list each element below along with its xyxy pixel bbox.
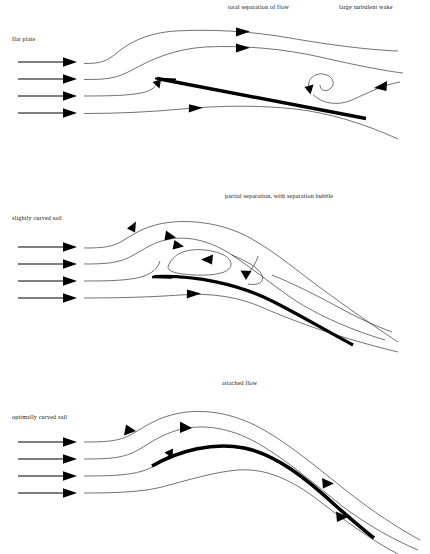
inflow-arrow (18, 276, 77, 286)
panel-2-flow-graphic (0, 185, 430, 370)
streamline-lower (84, 470, 398, 554)
inflow-arrow (18, 454, 77, 464)
inflow-arrow (18, 437, 77, 447)
inflow-arrow (18, 242, 77, 252)
inflow-arrow (18, 471, 77, 481)
inflow-arrow (18, 91, 77, 101)
separation-bubble-loop (168, 240, 231, 275)
optimally-curved-sail (152, 446, 374, 538)
streamline-lower (84, 104, 398, 139)
slightly-curved-sail (152, 276, 353, 345)
inflow-arrow (18, 74, 77, 84)
streamline-upper (84, 422, 418, 551)
streamline-bubble-edge (232, 255, 263, 285)
streamline-leading-edge (84, 80, 161, 97)
wake-reverse-flow (313, 81, 400, 103)
panel-optimally-curved-sail: attached flow optimally curved sail (0, 370, 430, 554)
inflow-arrows-group (18, 242, 77, 303)
panel-3-flow-graphic (0, 370, 430, 554)
inflow-arrow (18, 259, 77, 269)
inflow-arrow (18, 57, 77, 67)
panel-flat-plate: total separation of flow large turbulent… (0, 0, 430, 185)
panel-1-flow-graphic (0, 0, 430, 185)
inflow-arrow (18, 108, 77, 118)
streamline-trailing (272, 275, 392, 332)
airflow-diagram: total separation of flow large turbulent… (0, 0, 430, 554)
inflow-arrows-group (18, 57, 77, 118)
flat-plate-sail (155, 79, 366, 119)
inflow-arrow (18, 293, 77, 303)
streamline-upper (84, 44, 403, 80)
panel-slightly-curved-sail: partial separation, with separation bubb… (0, 185, 430, 370)
streamlines-group (84, 27, 403, 139)
streamline-top (84, 222, 398, 343)
inflow-arrow (18, 488, 77, 498)
streamline-top (84, 411, 420, 540)
inflow-arrows-group (18, 437, 77, 498)
wake-vortex (305, 74, 334, 95)
